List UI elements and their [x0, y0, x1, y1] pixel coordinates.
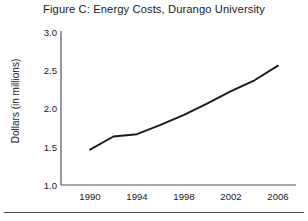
- plot-area: [0, 0, 308, 221]
- bottom-divider: [4, 212, 304, 213]
- data-line-energy-costs: [90, 66, 278, 150]
- figure-container: Figure C: Energy Costs, Durango Universi…: [0, 0, 308, 221]
